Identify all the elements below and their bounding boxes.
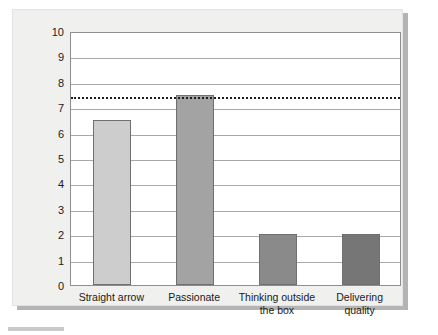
y-tick-label-7: 7	[18, 103, 64, 114]
corner-marker	[8, 327, 64, 331]
x-tick-label-3: Delivering quality	[318, 291, 401, 317]
bar-0[interactable]	[93, 120, 131, 285]
y-tick-label-5: 5	[18, 154, 64, 165]
gridline-8	[71, 84, 400, 85]
y-tick-label-6: 6	[18, 128, 64, 139]
y-tick-label-3: 3	[18, 204, 64, 215]
gridline-9	[71, 58, 400, 59]
bar-2[interactable]	[259, 234, 297, 285]
plot-area	[70, 32, 401, 286]
y-tick-label-10: 10	[18, 27, 64, 38]
x-axis-ticks: Straight arrowPassionateThinking outside…	[70, 291, 401, 331]
y-tick-label-2: 2	[18, 230, 64, 241]
y-tick-label-1: 1	[18, 255, 64, 266]
chart-panel: 109876543210 Straight arrowPassionateThi…	[12, 9, 403, 306]
y-tick-label-4: 4	[18, 179, 64, 190]
gridline-7	[71, 109, 400, 110]
x-tick-label-2: Thinking outside the box	[236, 291, 319, 317]
y-axis-ticks: 109876543210	[13, 32, 64, 286]
reference-line	[71, 97, 400, 99]
chart-figure: 109876543210 Straight arrowPassionateThi…	[0, 0, 438, 335]
y-tick-label-0: 0	[18, 281, 64, 292]
y-tick-label-8: 8	[18, 77, 64, 88]
x-tick-label-1: Passionate	[153, 291, 236, 304]
x-tick-label-0: Straight arrow	[70, 291, 153, 304]
bar-1[interactable]	[176, 95, 214, 286]
y-tick-label-9: 9	[18, 52, 64, 63]
bar-3[interactable]	[342, 234, 380, 285]
